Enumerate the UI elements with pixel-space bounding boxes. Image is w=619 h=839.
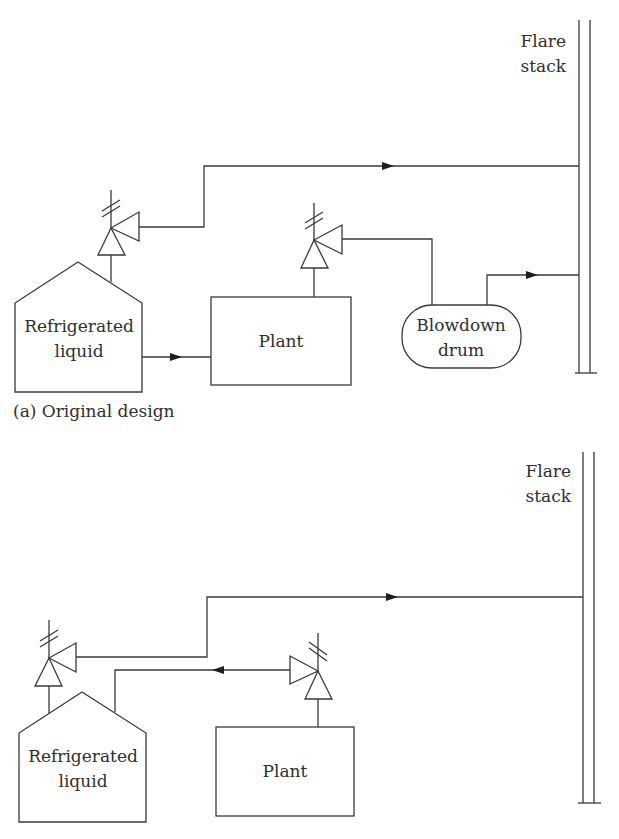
tank-relief-to-flare-line: [139, 166, 579, 227]
flare-stack-label-line2: stack: [525, 486, 571, 506]
flare-stack-b: Flare stack: [525, 452, 601, 803]
tank-label-line2: liquid: [54, 341, 103, 361]
flare-stack-label-line1: Flare: [520, 31, 566, 51]
flare-stack-label-line1: Flare: [525, 461, 571, 481]
relief-valve-plant-b: [290, 633, 332, 727]
relief-valve-plant-a: [301, 203, 342, 297]
refrigerated-liquid-tank-b: Refrigerated liquid: [19, 692, 146, 822]
relief-valve-tank-b: [35, 620, 76, 713]
plant-box-b: Plant: [216, 727, 354, 816]
refrigerated-liquid-tank-a: Refrigerated liquid: [15, 262, 142, 392]
plant-box-a: Plant: [211, 297, 351, 385]
drum-to-flare-line: [487, 275, 579, 305]
tank-label-line1: Refrigerated: [28, 746, 138, 766]
flare-stack-a: Flare stack: [520, 20, 597, 373]
panel-b-modified-design: Flare stack Refrigerated liquid Plant: [19, 452, 601, 822]
tank-relief-to-flare-line: [76, 597, 583, 657]
drum-label-line1: Blowdown: [416, 315, 505, 335]
plant-relief-to-tank-line: [115, 670, 290, 712]
arrow-right-icon: [526, 271, 538, 279]
tank-label-line1: Refrigerated: [24, 316, 134, 336]
drum-label-line2: drum: [438, 340, 484, 360]
arrow-right-icon: [386, 593, 398, 601]
plant-relief-to-drum-line: [342, 239, 432, 305]
arrow-left-icon: [212, 666, 224, 674]
relief-valve-tank-a: [98, 190, 139, 282]
arrow-right-icon: [170, 353, 182, 361]
plant-label: Plant: [263, 761, 308, 781]
flare-stack-label-line2: stack: [520, 56, 566, 76]
caption-a: (a) Original design: [13, 401, 175, 421]
plant-label: Plant: [259, 331, 304, 351]
panel-a-original-design: Flare stack Refrigerated liquid Plant: [13, 20, 597, 421]
diagram-canvas: Flare stack Refrigerated liquid Plant: [0, 0, 619, 839]
blowdown-drum: Blowdown drum: [402, 305, 521, 368]
tank-label-line2: liquid: [58, 771, 107, 791]
arrow-right-icon: [382, 162, 394, 170]
